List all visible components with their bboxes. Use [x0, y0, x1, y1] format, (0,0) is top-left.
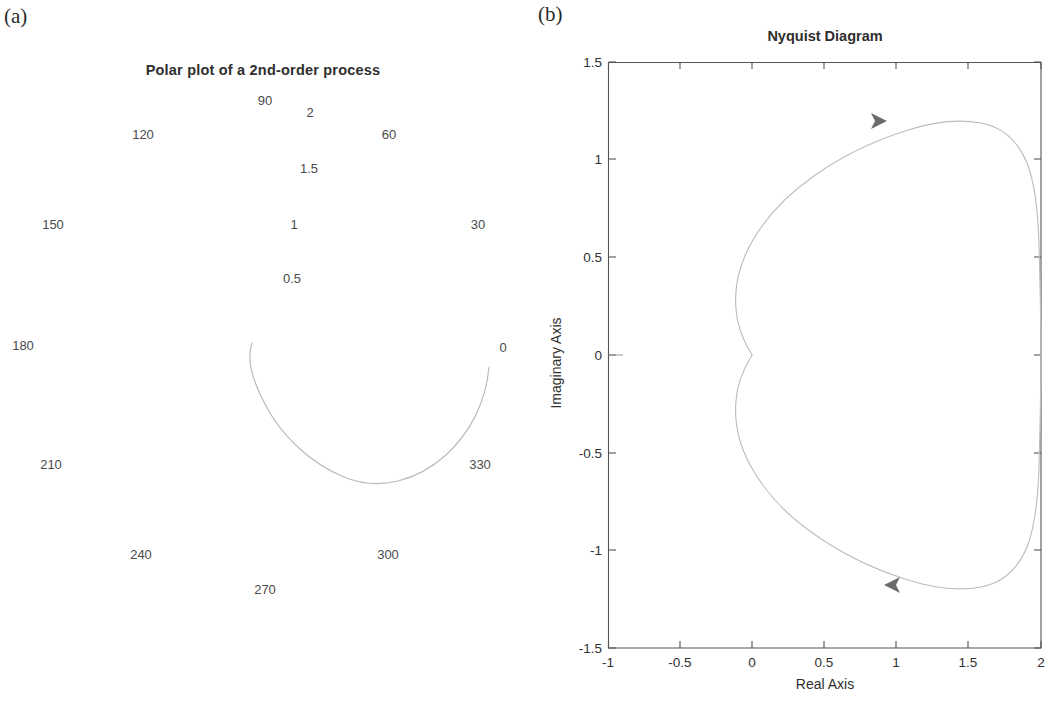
x-axis-ticks: [609, 62, 1042, 648]
polar-angle-label-180: 180: [12, 338, 34, 353]
nyquist-curve-lower: [736, 355, 1041, 589]
polar-angle-label-120: 120: [132, 127, 154, 142]
y-axis-ticks: [609, 62, 1042, 648]
polar-radius-label-2: 2: [306, 105, 313, 120]
polar-angle-label-300: 300: [377, 547, 399, 562]
polar-plot-panel: (a) Polar plot of a 2nd-order process 0 …: [0, 0, 526, 704]
nyquist-diagram-panel: (b) Nyquist Diagram: [526, 0, 1052, 704]
polar-radius-label-1_5: 1.5: [300, 161, 318, 176]
x-tick-label-neg1: -1: [602, 655, 614, 670]
direction-arrow-upper-icon: [871, 113, 887, 129]
y-tick-label-1_5: 1.5: [583, 55, 602, 70]
nyquist-x-axis-label: Real Axis: [608, 676, 1042, 692]
x-tick-label-neg0_5: -0.5: [668, 655, 691, 670]
direction-arrow-lower-icon: [884, 577, 900, 593]
x-tick-label-0_5: 0.5: [815, 655, 834, 670]
x-tick-label-0: 0: [748, 655, 756, 670]
y-tick-label-0: 0: [594, 348, 602, 363]
nyquist-curve-upper: [736, 121, 1041, 355]
y-tick-label-0_5: 0.5: [583, 250, 602, 265]
polar-angle-label-240: 240: [130, 547, 152, 562]
polar-angle-label-210: 210: [40, 457, 62, 472]
polar-angle-label-330: 330: [469, 457, 491, 472]
polar-radius-label-0_5: 0.5: [283, 271, 301, 286]
nyquist-plot-canvas: [526, 0, 1052, 704]
x-tick-label-1: 1: [892, 655, 900, 670]
y-tick-label-neg1: -1: [590, 543, 602, 558]
polar-radius-label-1: 1: [290, 217, 297, 232]
y-tick-label-neg0_5: -0.5: [579, 446, 602, 461]
polar-angle-label-90: 90: [258, 93, 272, 108]
x-tick-label-1_5: 1.5: [959, 655, 978, 670]
y-tick-label-1: 1: [594, 152, 602, 167]
polar-angle-label-30: 30: [471, 217, 485, 232]
polar-angle-label-270: 270: [254, 582, 276, 597]
polar-angle-label-0: 0: [499, 340, 506, 355]
y-tick-label-neg1_5: -1.5: [579, 641, 602, 656]
nyquist-y-axis-label: Imaginary Axis: [548, 273, 564, 453]
polar-angle-label-60: 60: [382, 127, 396, 142]
plot-frame: [609, 63, 1042, 649]
polar-curve: [250, 343, 489, 484]
x-tick-label-2: 2: [1037, 655, 1045, 670]
polar-angle-label-150: 150: [42, 217, 64, 232]
